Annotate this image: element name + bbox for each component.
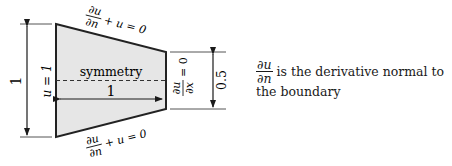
right-height-label: 0.5 — [214, 70, 229, 90]
svg-text:∂u: ∂u — [170, 82, 183, 95]
svg-text:+ u = 0: + u = 0 — [103, 127, 148, 150]
right-boundary-label: ∂u ∂x = 0 — [170, 57, 196, 96]
svg-text:+ u = 0: + u = 0 — [103, 14, 148, 37]
svg-text:∂x: ∂x — [183, 81, 196, 94]
derivative-note: ∂u ∂n is the derivative normal to the bo… — [256, 58, 452, 98]
svg-text:∂n: ∂n — [88, 144, 104, 160]
symmetry-label: symmetry — [80, 64, 144, 79]
svg-text:∂n: ∂n — [84, 15, 100, 31]
note-line2: the boundary — [256, 84, 341, 99]
length-label: 1 — [107, 83, 116, 99]
note-fraction: ∂u ∂n — [256, 58, 273, 85]
left-boundary-label: u = 1 — [40, 64, 54, 97]
left-height-label: 1 — [8, 77, 24, 86]
svg-text:= 0: = 0 — [177, 57, 190, 77]
note-line1: is the derivative normal to — [277, 64, 445, 79]
